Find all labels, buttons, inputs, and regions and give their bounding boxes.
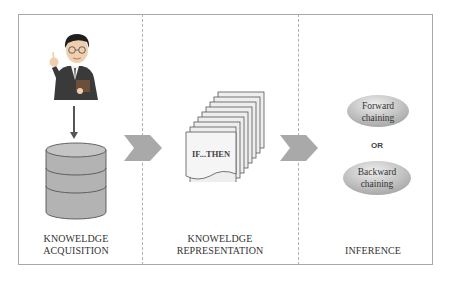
stage-label-representation: KNOWELDGE REPRESENTATION [170,233,270,257]
backward-chaining-label: Backward chaining [341,166,413,190]
forward-chaining-label: Forward chaining [345,100,411,124]
database-icon [44,142,108,220]
or-connector: OR [371,141,383,150]
person-icon [46,28,104,100]
stage-label-inference: INFERENCE [330,245,416,257]
chevron-arrow-icon [124,135,162,161]
stage-label-acquisition: KNOWELDGE ACQUISITION [30,233,122,257]
chevron-arrow-icon [280,135,318,161]
stacked-documents-icon: IF...THEN [184,90,268,182]
down-arrow-icon [69,106,79,140]
document-text: IF...THEN [192,149,231,159]
